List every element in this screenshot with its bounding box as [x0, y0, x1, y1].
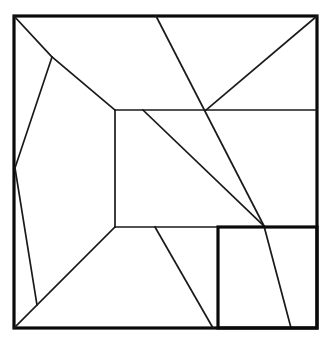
partitioned-square-diagram — [0, 0, 331, 344]
figure-container — [0, 0, 331, 344]
